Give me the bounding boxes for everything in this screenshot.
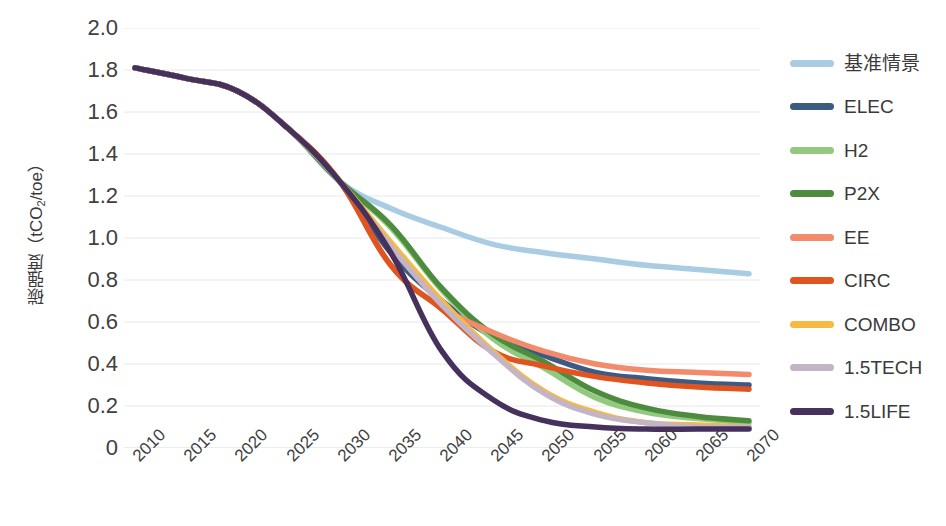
legend-swatch-icon [790,277,834,284]
legend-item[interactable]: COMBO [790,313,916,335]
series-line-ee [135,68,749,375]
legend-item-label: ELEC [844,97,894,116]
plot-canvas [124,28,760,448]
legend-item-label: COMBO [844,315,916,334]
y-axis-tick-labels: 2.01.81.61.41.21.00.80.60.40.20 [52,0,124,526]
legend-item-label: 1.5TECH [844,358,922,377]
legend-item-label: CIRC [844,271,890,290]
legend-item[interactable]: ELEC [790,96,894,118]
y-tick-label: 0.8 [87,267,118,293]
plot-area [124,28,760,448]
y-tick-label: 0 [106,435,118,461]
y-tick-label: 1.8 [87,57,118,83]
y-tick-label: 0.4 [87,351,118,377]
chart-legend: 基准情景ELECH2P2XEECIRCCOMBO1.5TECH1.5LIFE [790,52,946,442]
legend-item-label: P2X [844,184,880,203]
y-tick-label: 1.0 [87,225,118,251]
y-axis-title-text: 碳强度（tCO2/toe） [24,155,49,305]
series-line- [135,68,749,274]
legend-item[interactable]: P2X [790,183,880,205]
legend-item[interactable]: EE [790,226,869,248]
legend-item[interactable]: 1.5LIFE [790,400,911,422]
legend-swatch-icon [790,147,834,154]
legend-item-label: EE [844,228,869,247]
legend-item[interactable]: 1.5TECH [790,357,922,379]
legend-swatch-icon [790,364,834,371]
y-tick-label: 2.0 [87,15,118,41]
y-tick-label: 1.6 [87,99,118,125]
y-tick-label: 0.6 [87,309,118,335]
legend-item[interactable]: H2 [790,139,868,161]
legend-item[interactable]: 基准情景 [790,52,920,74]
carbon-intensity-line-chart: 碳强度（tCO2/toe） 2.01.81.61.41.21.00.80.60.… [0,0,946,526]
legend-item-label: 基准情景 [844,54,920,73]
series-line-1-5life [135,68,749,429]
series-line-p2x [135,68,749,421]
x-axis-tick-labels: 2010201520202025203020352040204520502055… [124,448,784,526]
legend-item-label: 1.5LIFE [844,402,911,421]
y-tick-label: 0.2 [87,393,118,419]
legend-swatch-icon [790,408,834,415]
legend-item[interactable]: CIRC [790,270,890,292]
legend-swatch-icon [790,234,834,241]
legend-swatch-icon [790,190,834,197]
y-tick-label: 1.2 [87,183,118,209]
legend-swatch-icon [790,321,834,328]
y-axis-title: 碳强度（tCO2/toe） [22,0,50,460]
y-tick-label: 1.4 [87,141,118,167]
legend-swatch-icon [790,103,834,110]
legend-swatch-icon [790,60,834,67]
legend-item-label: H2 [844,141,868,160]
